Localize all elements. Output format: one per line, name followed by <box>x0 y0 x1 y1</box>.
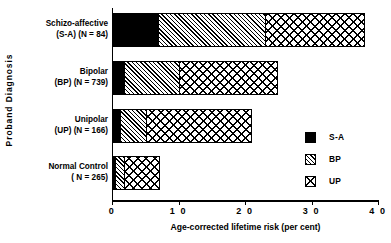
x-tick-mark <box>312 200 313 205</box>
x-tick-label: 1 0 <box>170 206 187 216</box>
bar-segment-up <box>124 157 159 189</box>
bar-segment-bp <box>115 157 124 189</box>
category-label-line1: Normal Control <box>48 162 108 171</box>
category-label: Normal Control( N = 265) <box>16 161 108 183</box>
y-axis-title-text: Proband Diagnosis <box>4 54 14 147</box>
category-label: Unipolar(UP) (N = 166) <box>16 114 108 136</box>
category-label-line1: Schizo-affective <box>46 19 108 28</box>
stacked-bar-chart: Proband Diagnosis Schizo-affective(S-A) … <box>0 0 391 243</box>
bar-3 <box>112 109 252 143</box>
x-tick-mark <box>378 200 379 205</box>
category-label: Bipolar(BP) (N = 739) <box>16 66 108 88</box>
bar-segment-sa <box>113 14 158 46</box>
legend-item-up: UP <box>305 170 385 192</box>
legend-item-bp: BP <box>305 148 385 170</box>
bar-segment-up <box>265 14 364 46</box>
bar-segment-up <box>179 62 278 94</box>
category-label: Schizo-affective(S-A) (N = 84) <box>16 18 108 40</box>
legend-swatch-icon <box>305 176 316 187</box>
legend-label: BP <box>329 154 341 164</box>
x-tick-mark <box>245 200 246 205</box>
x-tick-label: 0 <box>109 206 116 216</box>
bar-4 <box>112 156 160 190</box>
x-tick-label: 4 0 <box>369 206 386 216</box>
bar-segment-sa <box>113 62 124 94</box>
bar-segment-bp <box>124 62 179 94</box>
legend-label: UP <box>329 176 341 186</box>
legend-item-s-a: S-A <box>305 126 385 148</box>
category-label-group: Schizo-affective(S-A) (N = 84)Bipolar(BP… <box>14 0 108 200</box>
category-label-line1: Unipolar <box>75 115 108 124</box>
bar-1 <box>112 13 365 47</box>
category-label-line2: (UP) (N = 166) <box>16 125 108 136</box>
bar-segment-bp <box>120 110 147 142</box>
x-tick-label: 3 0 <box>303 206 320 216</box>
x-tick-label: 2 0 <box>236 206 253 216</box>
legend-label: S-A <box>329 132 344 142</box>
category-label-line2: (S-A) (N = 84) <box>16 29 108 40</box>
bar-2 <box>112 61 278 95</box>
category-label-line1: Bipolar <box>80 67 108 76</box>
category-label-line2: ( N = 265) <box>16 172 108 183</box>
x-tick-mark <box>179 200 180 205</box>
bar-segment-bp <box>158 14 265 46</box>
legend-swatch-icon <box>305 154 316 165</box>
chart-legend: S-ABPUP <box>305 126 385 192</box>
bar-segment-up <box>146 110 250 142</box>
category-label-line2: (BP) (N = 739) <box>16 77 108 88</box>
x-tick-mark <box>112 200 113 205</box>
x-axis-title: Age-corrected lifetime risk (per cent) <box>112 222 379 232</box>
legend-swatch-icon <box>305 132 316 143</box>
